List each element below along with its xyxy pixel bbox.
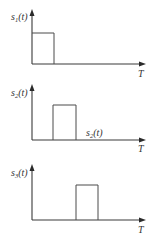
pulse-diagram: s1(t) T s2(t) s2(t) T s3(t) T xyxy=(0,0,151,240)
x-axis-arrow-icon xyxy=(139,218,146,223)
x-axis-label: T xyxy=(138,143,145,154)
y-axis-label: s3(t) xyxy=(11,167,28,179)
rectangular-pulse xyxy=(53,105,76,140)
panel-s3: s3(t) T xyxy=(11,164,146,235)
x-axis-label: T xyxy=(138,68,145,79)
y-axis-arrow-icon xyxy=(30,9,35,16)
panel-s2: s2(t) s2(t) T xyxy=(11,84,146,154)
axis-annotation-label: s2(t) xyxy=(86,127,103,139)
x-axis-label: T xyxy=(138,224,145,235)
rectangular-pulse xyxy=(32,33,54,64)
rectangular-pulse xyxy=(76,185,98,220)
y-axis-label: s2(t) xyxy=(11,87,28,99)
x-axis-arrow-icon xyxy=(139,62,146,67)
y-axis-label: s1(t) xyxy=(11,11,28,23)
y-axis-arrow-icon xyxy=(30,164,35,171)
x-axis-arrow-icon xyxy=(139,138,146,143)
y-axis-arrow-icon xyxy=(30,84,35,91)
panel-s1: s1(t) T xyxy=(11,9,146,79)
